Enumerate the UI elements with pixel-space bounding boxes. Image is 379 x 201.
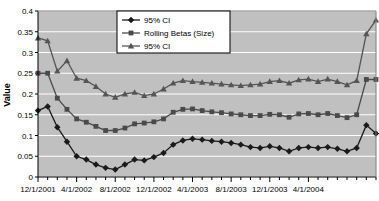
x-tick-label: 12/1/2001 xyxy=(20,185,56,194)
data-point-marker xyxy=(123,126,128,131)
x-tick-label: 12/1/2002 xyxy=(136,185,172,194)
y-tick-label: 0.4 xyxy=(22,7,34,16)
data-point-marker xyxy=(345,115,350,120)
data-point-marker xyxy=(316,112,321,117)
data-point-marker xyxy=(180,107,185,112)
data-point-marker xyxy=(287,115,292,120)
y-tick-label: 0.25 xyxy=(17,69,33,78)
data-point-marker xyxy=(306,111,311,116)
data-point-marker xyxy=(132,121,137,126)
data-point-marker xyxy=(267,112,272,117)
data-point-marker xyxy=(209,109,214,114)
data-point-marker xyxy=(171,110,176,115)
data-point-marker xyxy=(200,108,205,113)
y-tick-label: 0.15 xyxy=(17,111,33,120)
chart-legend[interactable]: 95% CIRolling Betas (Size)95% CI xyxy=(117,11,230,53)
y-tick-label: 0.3 xyxy=(22,49,34,58)
data-point-marker xyxy=(248,113,253,118)
data-point-marker xyxy=(65,107,70,112)
x-tick-label: 4/1/2004 xyxy=(293,185,325,194)
line-chart: 0.40.350.30.250.20.150.10.050 12/1/20014… xyxy=(0,0,379,201)
data-point-marker xyxy=(55,96,60,101)
data-point-marker xyxy=(277,112,282,117)
chart-container: 0.40.350.30.250.20.150.10.050 12/1/20014… xyxy=(0,0,379,201)
y-tick-label: 0.2 xyxy=(22,90,34,99)
y-tick-label: 0.35 xyxy=(17,28,33,37)
data-point-marker xyxy=(161,117,166,122)
x-tick-label: 4/1/2002 xyxy=(61,185,93,194)
x-axis-ticks xyxy=(38,177,376,182)
data-point-marker xyxy=(229,112,234,117)
data-point-marker xyxy=(84,120,89,125)
y-tick-label: 0 xyxy=(29,173,34,182)
x-tick-label: 8/1/2003 xyxy=(216,185,248,194)
data-point-marker xyxy=(151,119,156,124)
data-point-marker xyxy=(103,128,108,133)
x-tick-label: 12/1/2003 xyxy=(252,185,288,194)
data-point-marker xyxy=(190,107,195,112)
data-point-marker xyxy=(325,111,330,116)
legend-label: 95% CI xyxy=(144,16,170,25)
data-point-marker xyxy=(94,124,99,129)
x-tick-label: 4/1/2003 xyxy=(177,185,209,194)
data-point-marker xyxy=(74,117,79,122)
data-point-marker xyxy=(335,113,340,118)
data-point-marker xyxy=(113,128,118,133)
y-axis-tick-labels: 0.40.350.30.250.20.150.10.050 xyxy=(17,7,33,182)
data-point-marker xyxy=(219,110,224,115)
y-tick-label: 0.05 xyxy=(17,152,33,161)
legend-label: 95% CI xyxy=(144,42,170,51)
data-point-marker xyxy=(45,71,50,76)
data-point-marker xyxy=(296,112,301,117)
y-axis-label: Value xyxy=(2,83,12,107)
x-axis-tick-labels: 12/1/20014/1/20028/1/200212/1/20024/1/20… xyxy=(20,185,324,194)
x-tick-label: 8/1/2002 xyxy=(100,185,132,194)
y-tick-label: 0.1 xyxy=(22,132,34,141)
data-point-marker xyxy=(142,121,147,126)
data-point-marker xyxy=(364,77,369,82)
legend-label: Rolling Betas (Size) xyxy=(144,29,215,38)
data-point-marker xyxy=(258,113,263,118)
data-point-marker xyxy=(238,112,243,117)
data-point-marker xyxy=(129,31,134,36)
data-point-marker xyxy=(354,112,359,117)
